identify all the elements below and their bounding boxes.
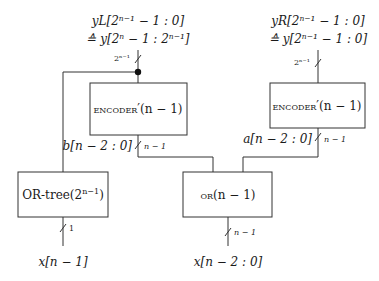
x-rest-label: x[n − 2 : 0]	[194, 255, 263, 269]
y-left-label-line1: yL[2ⁿ⁻¹ − 1 : 0]	[91, 14, 185, 28]
encoder-left-label: encoder′(n − 1)	[94, 102, 183, 116]
y-right-label-line2: ≙ y[2ⁿ⁻¹ − 1 : 0]	[269, 32, 368, 46]
x-msb-label: x[n − 1]	[38, 255, 87, 269]
a-label: a[n − 2 : 0]	[243, 132, 312, 146]
y-left-label-line2: ≙ y[2ⁿ − 1 : 2ⁿ⁻¹]	[86, 32, 189, 46]
bus-width-y-left: 2ⁿ⁻¹	[114, 54, 130, 63]
y-right-label-line1: yR[2ⁿ⁻¹ − 1 : 0]	[270, 14, 365, 28]
bus-width-x-msb: 1	[69, 224, 74, 233]
block-diagram: encoder′(n − 1) encoder′(n − 1) OR-tree(…	[0, 0, 379, 281]
wire-b	[138, 135, 213, 172]
encoder-right-label: encoder′(n − 1)	[273, 99, 362, 113]
bus-width-b: n − 1	[144, 142, 166, 151]
bus-width-x-rest: n − 1	[234, 228, 256, 237]
bus-width-y-right: 2ⁿ⁻¹	[294, 58, 310, 67]
b-label: b[n − 2 : 0]	[63, 139, 133, 153]
junction-dot	[135, 69, 141, 75]
bus-width-a: n − 1	[324, 135, 346, 144]
or-label: or(n − 1)	[200, 188, 255, 202]
